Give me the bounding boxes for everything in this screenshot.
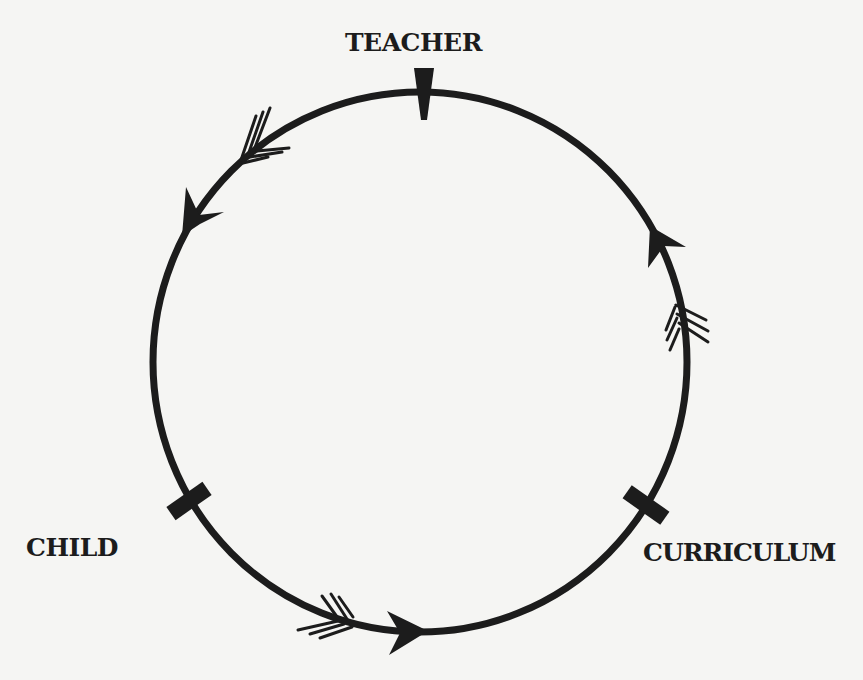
node-marker-child [166, 482, 211, 520]
arrowhead-teacher-to-child [182, 187, 224, 236]
cycle-ring [153, 92, 687, 632]
cycle-diagram [0, 0, 863, 680]
node-marker-curriculum [623, 485, 670, 524]
arrow-teacher-to-child [241, 108, 289, 163]
